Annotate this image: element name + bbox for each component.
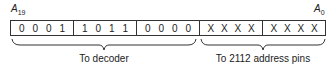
bit: 0 — [93, 23, 103, 34]
address-pins-caption: To 2112 address pins — [200, 53, 326, 64]
bit: X — [282, 23, 292, 34]
bit: 0 — [17, 23, 27, 34]
bit: 1 — [107, 23, 117, 34]
bit: X — [219, 23, 229, 34]
lsb-label: A0 — [314, 3, 325, 16]
msb-label: A19 — [11, 3, 25, 16]
bit: X — [246, 23, 256, 34]
nibble-4: X X X X — [263, 21, 325, 35]
decoder-brace — [12, 39, 196, 50]
bit: 1 — [57, 23, 67, 34]
bit: X — [233, 23, 243, 34]
bit: 0 — [30, 23, 40, 34]
decoder-caption: To decoder — [12, 53, 196, 64]
bit: 0 — [44, 23, 54, 34]
bit: X — [206, 23, 216, 34]
bit: 0 — [183, 23, 193, 34]
pins-brace — [201, 39, 325, 50]
bit: 1 — [120, 23, 130, 34]
bit: 0 — [170, 23, 180, 34]
address-register: 0 0 0 1 1 0 1 1 0 0 0 0 X X X X X X X X — [10, 20, 326, 36]
nibble-3: X X X X — [200, 21, 263, 35]
bit: X — [309, 23, 319, 34]
grouping-braces — [0, 38, 329, 52]
bit: 0 — [143, 23, 153, 34]
nibble-0: 0 0 0 1 — [11, 21, 74, 35]
bit: 1 — [80, 23, 90, 34]
bit: X — [269, 23, 279, 34]
nibble-2: 0 0 0 0 — [137, 21, 200, 35]
bit: 0 — [156, 23, 166, 34]
nibble-1: 1 0 1 1 — [74, 21, 137, 35]
bit: X — [296, 23, 306, 34]
